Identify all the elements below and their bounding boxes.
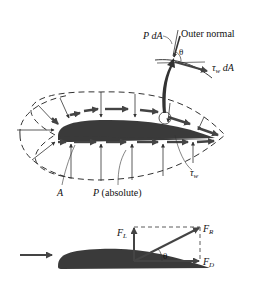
pressure-lines-lower xyxy=(32,142,193,181)
callout-arrow xyxy=(162,58,175,113)
label-P-absolute: P (absolute) xyxy=(92,187,142,199)
tau-w-dA-arrow xyxy=(175,62,207,71)
bottom-panel: FL FR FD θ xyxy=(20,223,214,269)
label-outer-normal: Outer normal xyxy=(181,28,235,39)
label-tau-w: τw xyxy=(190,167,199,180)
label-A: A xyxy=(56,187,64,198)
label-theta-forces: θ xyxy=(163,251,167,261)
label-tau-w-dA: τw dA xyxy=(212,62,235,75)
label-theta-detail: θ xyxy=(179,47,183,57)
shear-arrows-lower xyxy=(58,141,214,142)
label-pdA: P dA xyxy=(142,30,163,41)
label-FR: FR xyxy=(202,223,214,236)
airfoil-force-diagram: P dA Outer normal θ τw dA A P (absolute)… xyxy=(0,0,253,284)
label-FL: FL xyxy=(116,227,127,240)
top-panel: P dA Outer normal θ τw dA A P (absolute)… xyxy=(17,28,235,199)
